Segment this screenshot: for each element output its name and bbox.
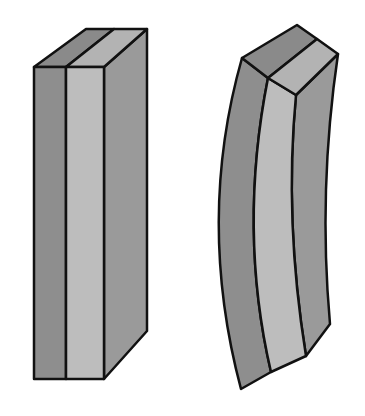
bent-strip [219,25,338,389]
straight-strip [34,29,147,379]
straight-strip-front-dark-layer [34,67,66,379]
straight-strip-side-face [104,29,147,379]
bimetallic-strip-diagram [0,0,365,416]
straight-strip-front-light-layer [66,67,104,379]
